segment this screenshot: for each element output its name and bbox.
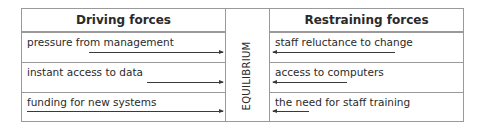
restraining-force-label: staff reluctance to change xyxy=(275,36,413,49)
restraining-force-row: access to computers xyxy=(270,62,463,92)
restraining-force-label: the need for staff training xyxy=(275,96,410,109)
driving-forces-header: Driving forces xyxy=(22,9,225,32)
restraining-forces-panel: Restraining forces staff reluctance to c… xyxy=(269,8,464,122)
force-field-diagram: Driving forces pressure from management … xyxy=(0,0,483,131)
restraining-force-row: the need for staff training xyxy=(270,92,463,122)
driving-force-row: pressure from management xyxy=(22,32,225,62)
driving-force-label: pressure from management xyxy=(27,36,174,49)
driving-force-row: instant access to data xyxy=(22,62,225,92)
restraining-arrow-icon xyxy=(273,82,347,83)
driving-arrow-icon xyxy=(27,111,223,112)
equilibrium-label: EQUILIBRIUM xyxy=(241,42,252,111)
driving-force-row: funding for new systems xyxy=(22,92,225,122)
restraining-arrow-icon xyxy=(273,52,395,53)
driving-force-label: instant access to data xyxy=(27,66,143,79)
driving-force-label: funding for new systems xyxy=(27,96,157,109)
driving-forces-panel: Driving forces pressure from management … xyxy=(21,8,226,122)
restraining-forces-header: Restraining forces xyxy=(270,9,463,32)
restraining-arrow-icon xyxy=(273,111,309,112)
driving-arrow-icon xyxy=(89,52,223,53)
restraining-force-label: access to computers xyxy=(275,66,384,79)
restraining-force-row: staff reluctance to change xyxy=(270,32,463,62)
driving-arrow-icon xyxy=(147,82,223,83)
